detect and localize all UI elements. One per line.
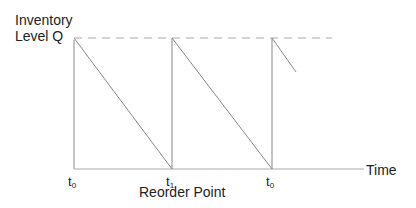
reorder-point-label: Reorder Point	[139, 184, 225, 200]
depletion-line-1	[74, 38, 172, 169]
depletion-line-2	[172, 38, 272, 169]
depletion-line-3	[272, 38, 296, 72]
y-axis-label-line1: Inventory	[15, 12, 73, 28]
x-axis-label: Time	[366, 162, 397, 178]
tick-t0-end: t0	[266, 174, 274, 190]
y-axis-label-line2: Level Q	[15, 28, 63, 44]
tick-t0-start: t0	[68, 174, 76, 190]
